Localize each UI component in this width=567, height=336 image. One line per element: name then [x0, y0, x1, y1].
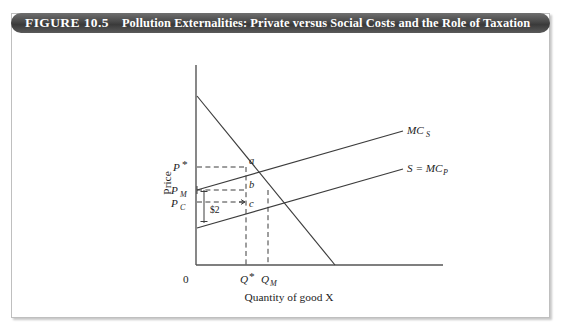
q-star-label: Q *: [240, 270, 255, 285]
plot-area: Price Quantity of good X 0 P * P M P C Q…: [11, 33, 550, 318]
figure-number: FIGURE 10.5: [25, 15, 109, 31]
svg-text:M: M: [179, 190, 188, 199]
mcs-leader-line: [389, 131, 403, 135]
demand-curve: [197, 96, 335, 265]
point-c-label: c: [249, 198, 254, 209]
origin-label: 0: [183, 273, 189, 285]
svg-text:Q: Q: [261, 273, 269, 285]
point-b-label: b: [249, 179, 254, 190]
svg-text:Q: Q: [240, 273, 248, 285]
svg-text:P: P: [442, 168, 448, 177]
svg-text:C: C: [180, 203, 186, 212]
x-axis-title: Quantity of good X: [245, 291, 335, 303]
svg-text:S = MC: S = MC: [407, 162, 443, 174]
mcs-label: MC S: [406, 124, 430, 139]
svg-text:*: *: [182, 158, 188, 170]
mcp-leader-line: [389, 169, 403, 173]
svg-text:P: P: [170, 184, 178, 196]
svg-text:S: S: [426, 130, 430, 139]
tax-wedge-label: $2: [210, 204, 220, 215]
p-c-label: P C: [170, 197, 186, 212]
svg-text:M: M: [269, 279, 278, 288]
figure-caption-bar: FIGURE 10.5 Pollution Externalities: Pri…: [11, 13, 550, 33]
p-star-label: P *: [172, 158, 188, 173]
economics-diagram: Price Quantity of good X 0 P * P M P C Q…: [11, 33, 550, 318]
figure-title: Pollution Externalities: Private versus …: [122, 16, 530, 31]
svg-text:P: P: [170, 197, 178, 209]
svg-text:*: *: [249, 270, 255, 282]
svg-text:P: P: [172, 161, 180, 173]
figure-root: FIGURE 10.5 Pollution Externalities: Pri…: [0, 0, 567, 336]
svg-text:MC: MC: [406, 124, 424, 136]
q-m-label: Q M: [261, 273, 278, 288]
point-a-label: a: [249, 155, 254, 166]
mcp-label: S = MC P: [407, 162, 448, 177]
